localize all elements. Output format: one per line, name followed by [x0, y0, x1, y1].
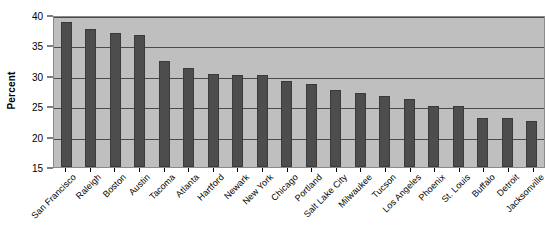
bar [404, 99, 415, 167]
bar-slot [275, 17, 300, 167]
bar-slot [250, 17, 275, 167]
x-tick-label: Raleigh [74, 172, 103, 201]
bar [183, 68, 194, 167]
bar [330, 90, 341, 167]
bar [61, 22, 72, 167]
x-axis-labels: San FranciscoRaleighBostonAustinTacomaAt… [53, 172, 545, 245]
x-tick-label: Boston [100, 172, 127, 199]
x-tick-label: Hartford [195, 172, 226, 203]
bar-slot [422, 17, 447, 167]
y-axis: 152025303540 [0, 0, 53, 185]
bar-slot [348, 17, 373, 167]
bar-slot [324, 17, 349, 167]
bar-slot [226, 17, 251, 167]
bar [134, 35, 145, 167]
bar [355, 93, 366, 167]
x-tick-label: Buffalo [469, 172, 496, 199]
bar-slot [373, 17, 398, 167]
bar [306, 84, 317, 167]
bar-slot [79, 17, 104, 167]
bar [428, 106, 439, 167]
bar-slot [152, 17, 177, 167]
bar-slot [177, 17, 202, 167]
bar-slot [54, 17, 79, 167]
y-tick-label-35: 35 [32, 41, 43, 52]
x-tick-label: Tacoma [147, 172, 177, 202]
bar [110, 33, 121, 167]
bars-container [54, 17, 544, 167]
bar-slot [128, 17, 153, 167]
y-tick-label-30: 30 [32, 71, 43, 82]
bar-slot [397, 17, 422, 167]
bar [232, 75, 243, 167]
bar [159, 61, 170, 167]
bar-slot [299, 17, 324, 167]
bar [257, 75, 268, 167]
bar [502, 118, 513, 167]
bar [281, 81, 292, 167]
bar-chart: Percent 152025303540 San FranciscoRaleig… [0, 0, 559, 245]
y-tick-label-25: 25 [32, 102, 43, 113]
bar-slot [103, 17, 128, 167]
bar [379, 96, 390, 167]
bar-slot [495, 17, 520, 167]
bar [85, 29, 96, 167]
bar-slot [520, 17, 545, 167]
bar [477, 118, 488, 167]
bar [526, 121, 537, 167]
y-tick-label-20: 20 [32, 132, 43, 143]
bar-slot [471, 17, 496, 167]
bar-slot [201, 17, 226, 167]
bar [453, 106, 464, 167]
plot-area [53, 16, 545, 168]
bar [208, 74, 219, 167]
y-tick-label-15: 15 [32, 163, 43, 174]
bar-slot [446, 17, 471, 167]
y-tick-label-40: 40 [32, 11, 43, 22]
